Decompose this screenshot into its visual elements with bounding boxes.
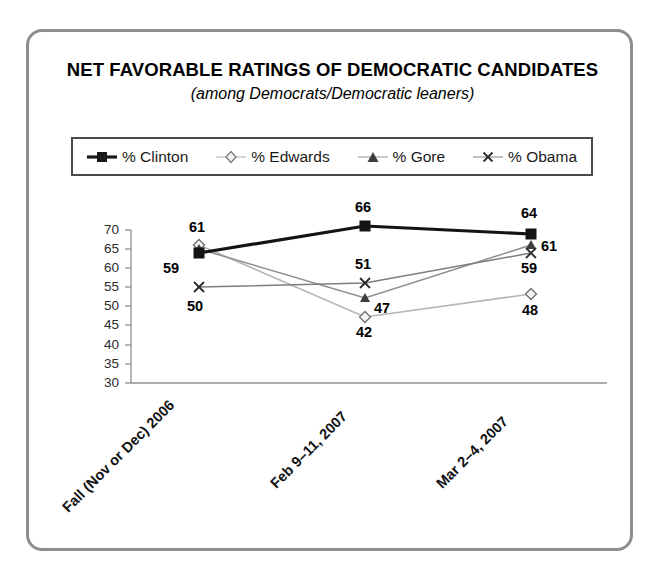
value-label-obama-2: 59 xyxy=(521,260,537,276)
value-label-obama-1: 51 xyxy=(355,256,371,272)
y-tick-65: 65 xyxy=(95,241,119,256)
y-tick-60: 60 xyxy=(95,260,119,275)
y-tick-40: 40 xyxy=(95,337,119,352)
filled-triangle-marker-icon xyxy=(358,150,388,164)
y-tick-50: 50 xyxy=(95,298,119,313)
chart-title: NET FAVORABLE RATINGS OF DEMOCRATIC CAND… xyxy=(29,59,636,81)
series-line-clinton xyxy=(194,221,537,259)
x-cross-marker-icon xyxy=(473,150,503,164)
y-tick-70: 70 xyxy=(95,222,119,237)
legend-label-clinton: % Clinton xyxy=(122,148,188,166)
chart-subtitle: (among Democrats/Democratic leaners) xyxy=(29,85,636,103)
x-tick-label-2: Mar 2–4, 2007 xyxy=(433,413,511,491)
y-tick-55: 55 xyxy=(95,279,119,294)
y-tick-35: 35 xyxy=(95,356,119,371)
value-label-edwards-2: 48 xyxy=(522,302,538,318)
y-axis-ticks xyxy=(125,230,131,383)
value-label-clinton-0: 59 xyxy=(163,260,179,276)
value-label-gore-2: 61 xyxy=(541,238,557,254)
value-label-gore-1: 47 xyxy=(374,300,390,316)
series-line-edwards xyxy=(194,240,537,323)
open-diamond-marker-icon xyxy=(216,150,246,164)
chart-frame: NET FAVORABLE RATINGS OF DEMOCRATIC CAND… xyxy=(26,29,633,551)
y-tick-30: 30 xyxy=(95,375,119,390)
value-label-edwards-0: 61 xyxy=(189,219,205,235)
legend-label-obama: % Obama xyxy=(508,148,577,166)
y-tick-45: 45 xyxy=(95,317,119,332)
x-tick-label-1: Feb 9–11, 2007 xyxy=(267,408,350,491)
filled-square-marker-icon xyxy=(87,150,117,164)
legend-item-clinton[interactable]: % Clinton xyxy=(87,148,188,166)
value-label-obama-0: 50 xyxy=(187,298,203,314)
plot-canvas xyxy=(29,32,636,554)
value-label-clinton-1: 66 xyxy=(355,199,371,215)
legend-label-gore: % Gore xyxy=(393,148,446,166)
legend-label-edwards: % Edwards xyxy=(251,148,329,166)
chart-page: NET FAVORABLE RATINGS OF DEMOCRATIC CAND… xyxy=(0,0,660,577)
x-tick-label-0: Fall (Nov or Dec) 2006 xyxy=(59,397,177,515)
chart-legend: % Clinton % Edwards % Gore xyxy=(71,137,593,176)
title-block: NET FAVORABLE RATINGS OF DEMOCRATIC CAND… xyxy=(29,59,636,103)
value-label-clinton-2: 64 xyxy=(521,205,537,221)
legend-item-obama[interactable]: % Obama xyxy=(473,148,577,166)
legend-item-gore[interactable]: % Gore xyxy=(358,148,446,166)
legend-item-edwards[interactable]: % Edwards xyxy=(216,148,329,166)
value-label-edwards-1: 42 xyxy=(356,324,372,340)
